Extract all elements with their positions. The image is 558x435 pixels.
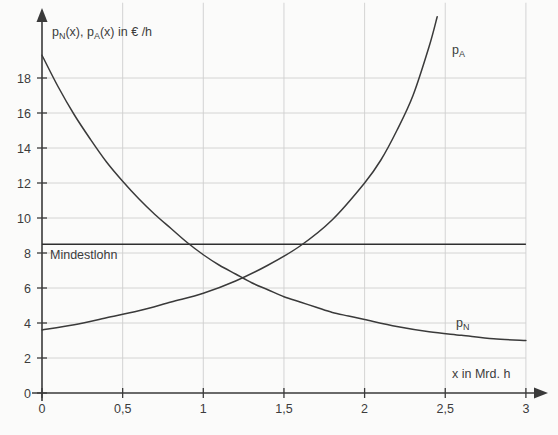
tick-label-y: 2 [24,352,31,366]
chart-svg: 024681012141618 00,511,522,53 pN(x), pA(… [0,0,558,435]
tick-label-x: 2 [361,402,368,416]
tick-label-x: 1,5 [275,402,292,416]
chart-container: 024681012141618 00,511,522,53 pN(x), pA(… [0,0,558,435]
x-axis-title: x in Mrd. h [452,367,510,381]
tick-label-x: 0,5 [114,402,131,416]
tick-label-y: 4 [24,317,31,331]
y-axis-title-p1: p [52,25,59,39]
y-axis-title-end: (x) in € /h [100,25,152,39]
tick-label-x: 0 [39,402,46,416]
tick-label-y: 8 [24,247,31,261]
minimum-wage-label: Mindestlohn [50,248,117,262]
tick-label-x: 2,5 [437,402,454,416]
tick-label-x: 3 [522,402,529,416]
y-axis-title-mid: (x), p [65,25,94,39]
curve-label-pa-base: p [452,43,459,57]
y-axis-title: pN(x), pA(x) in € /h [52,25,152,41]
tick-label-y: 12 [17,177,31,191]
tick-label-y: 10 [17,212,31,226]
tick-label-y: 14 [17,142,31,156]
tick-label-y: 6 [24,282,31,296]
tick-label-x: 1 [200,402,207,416]
tick-label-y: 18 [17,72,31,86]
tick-label-y: 0 [24,387,31,401]
curve-label-pa-sub: A [459,49,465,59]
curve-label-pn-base: p [456,316,463,330]
curve-label-pn-sub: N [463,322,470,332]
tick-label-y: 16 [17,107,31,121]
